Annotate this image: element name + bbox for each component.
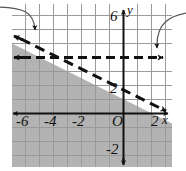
x-tick-label-minus4: -4 (44, 114, 57, 129)
graph-figure: -6 -4 -2 2 6 2 -2 O x y (0, 0, 186, 171)
origin-label: O (112, 114, 123, 129)
graph-canvas (0, 0, 186, 171)
x-tick-label-minus2: -2 (72, 114, 85, 129)
y-tick-label-2: 2 (110, 81, 118, 96)
x-tick-label-minus6: -6 (16, 114, 29, 129)
x-tick-label-2: 2 (151, 114, 159, 129)
y-axis-label: y (127, 3, 133, 16)
y-tick-label-6: 6 (110, 9, 118, 24)
x-axis-label: x (162, 113, 168, 126)
y-tick-label-minus2: -2 (106, 142, 119, 157)
